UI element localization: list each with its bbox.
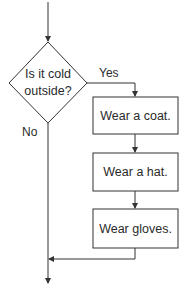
decision-label-line2: outside? [14, 83, 82, 100]
decision-label: Is it cold outside? [14, 66, 82, 100]
yes-connector [87, 83, 135, 96]
no-label: No [22, 125, 37, 139]
step-label-hat: Wear a hat. [93, 153, 178, 191]
step-label-gloves: Wear gloves. [93, 209, 178, 248]
decision-label-line1: Is it cold [14, 66, 82, 83]
flowchart-canvas [0, 0, 189, 295]
step-label-coat: Wear a coat. [93, 97, 178, 134]
merge-connector [49, 248, 135, 259]
yes-label: Yes [99, 66, 119, 80]
